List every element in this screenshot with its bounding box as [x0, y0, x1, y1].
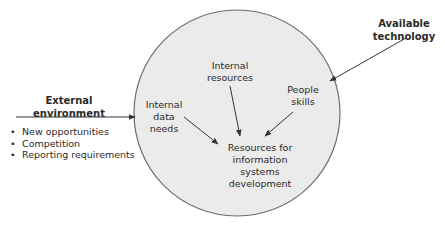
center-line3: systems: [220, 166, 300, 178]
center-line2: information: [220, 154, 300, 166]
ps-line1: People: [278, 84, 328, 96]
technology-line1: Available: [367, 17, 441, 30]
idn-line2: data: [138, 111, 190, 123]
ir-line1: Internal: [198, 60, 262, 72]
internal-resources-label: Internal resources: [198, 60, 262, 84]
available-technology-label: Available technology: [367, 17, 441, 43]
list-item: Reporting requirements: [8, 149, 135, 161]
center-line1: Resources for: [220, 142, 300, 154]
diagram-canvas: External environment New opportunities C…: [0, 0, 445, 230]
external-factors-list: New opportunities Competition Reporting …: [8, 126, 135, 161]
external-title-line1: External: [14, 94, 124, 107]
idn-line1: Internal: [138, 99, 190, 111]
idn-line3: needs: [138, 123, 190, 135]
people-skills-label: People skills: [278, 84, 328, 108]
ps-line2: skills: [278, 96, 328, 108]
list-item: Competition: [8, 138, 135, 150]
external-title-line2: environment: [14, 107, 124, 120]
technology-line2: technology: [367, 30, 441, 43]
available-technology-arrow: [330, 38, 406, 81]
resources-for-is-development-label: Resources for information systems develo…: [220, 142, 300, 190]
list-item: New opportunities: [8, 126, 135, 138]
external-environment-label: External environment: [14, 94, 124, 120]
center-line4: development: [220, 178, 300, 190]
internal-data-needs-label: Internal data needs: [138, 99, 190, 135]
ir-line2: resources: [198, 72, 262, 84]
